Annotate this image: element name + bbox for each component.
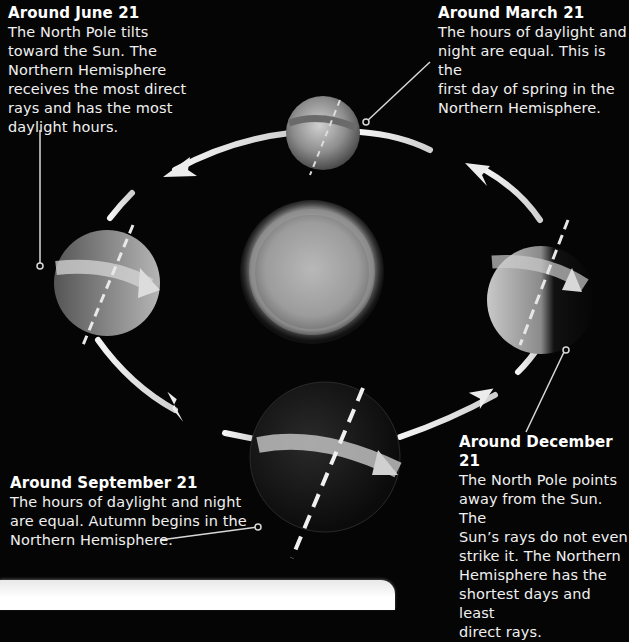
orbit-arc-june-to-september [98,340,175,410]
orbit-arc-december-to-march [485,170,540,220]
caption-june: Around June 21 The North Pole tilts towa… [8,4,208,137]
caption-december-line: Sun’s rays do not even [459,528,629,547]
caption-september-line: are equal. Autumn begins in the [10,512,270,531]
leader-line-december [526,352,564,432]
earth-june-icon [54,225,160,345]
bottom-panel-edge [0,580,395,610]
caption-june-line: toward the Sun. The [8,42,208,61]
caption-september-line: Northern Hemisphere. [10,531,270,550]
caption-september: Around September 21 The hours of dayligh… [10,474,270,550]
caption-december-line: The North Pole points [459,471,629,490]
caption-june-title: Around June 21 [8,4,208,23]
caption-december-line: shortest days and least [459,585,629,623]
caption-june-line: receives the most direct [8,80,208,99]
caption-september-line: The hours of daylight and night [10,493,270,512]
caption-march: Around March 21 The hours of daylight an… [438,4,628,118]
caption-december: Around December 21 The North Pole points… [459,433,629,642]
caption-march-line: first day of spring in the [438,80,628,99]
sun-icon [240,200,384,344]
earth-september-icon [250,382,400,558]
caption-june-line: rays and has the most [8,99,208,118]
caption-march-title: Around March 21 [438,4,628,23]
caption-december-line: strike it. The Northern [459,547,629,566]
caption-december-line: away from the Sun. The [459,490,629,528]
caption-december-line: Hemisphere has the [459,566,629,585]
leader-line-march [366,62,430,122]
earth-march-icon [286,96,360,175]
caption-march-line: night are equal. This is the [438,42,628,80]
orbit-arc-upper-left [110,193,132,218]
caption-december-line: direct rays. [459,623,629,642]
earth-december-icon [487,220,595,354]
arrowhead-up-icon [465,163,490,186]
caption-march-line: The hours of daylight and [438,23,628,42]
caption-june-line: The North Pole tilts [8,23,208,42]
caption-june-line: daylight hours. [8,118,208,137]
caption-march-line: Northern Hemisphere. [438,99,628,118]
caption-september-title: Around September 21 [10,474,270,493]
caption-december-title: Around December 21 [459,433,629,471]
orbit-arc-march-right [360,132,430,150]
orbit-arc-march-to-june [175,133,290,170]
caption-june-line: Northern Hemisphere [8,61,208,80]
